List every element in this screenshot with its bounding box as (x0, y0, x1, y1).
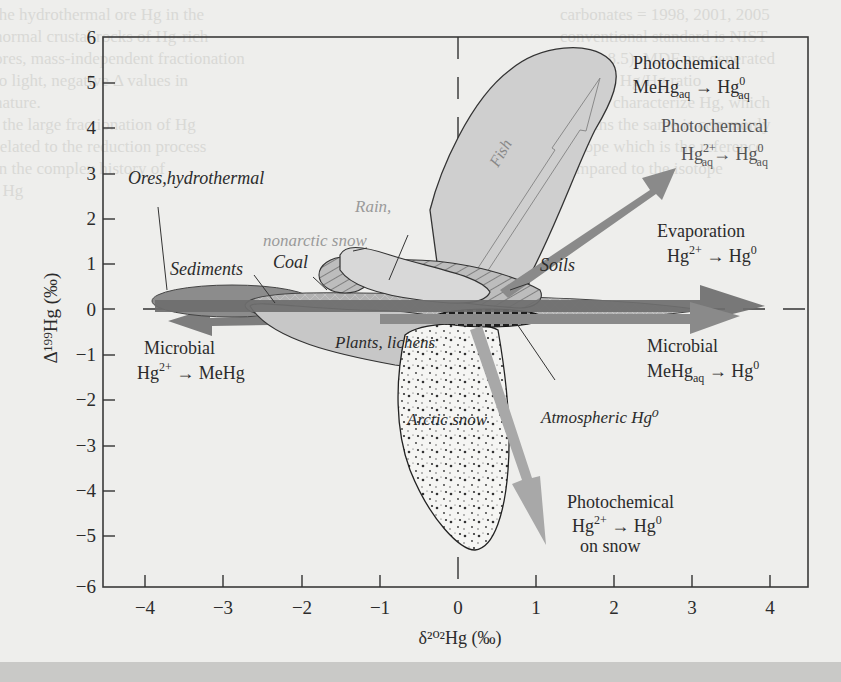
label-coal: Coal (273, 252, 308, 272)
x-tick-label: 0 (453, 597, 463, 618)
x-tick-label: 1 (531, 597, 541, 618)
y-tick-label: −5 (76, 525, 96, 546)
y-axis-title: Δ¹⁹⁹Hg (‰) (40, 273, 62, 364)
label-atmospheric: Atmospheric Hg⁰ (540, 408, 659, 427)
y-tick-label: 0 (87, 299, 97, 320)
y-tick-label: −2 (76, 389, 96, 410)
process-micro-left-eq: Hg2+ → MeHg (137, 360, 245, 383)
y-tick-labels: 6 5 4 3 2 1 0 −1 −2 −3 −4 −5 −6 (76, 27, 97, 597)
process-photo-mehg-title: Photochemical (633, 53, 740, 73)
y-tick-label: 4 (87, 117, 97, 138)
label-ores: Ores,hydrothermal (128, 168, 264, 188)
y-tick-label: −6 (76, 576, 96, 597)
label-arctic-snow: Arctic snow (406, 410, 488, 429)
y-tick-label: 2 (87, 208, 97, 229)
label-plants: Plants, lichens (334, 333, 435, 352)
process-evap-eq: Hg2+ → Hg0 (667, 243, 757, 266)
label-sediments: Sediments (170, 259, 243, 279)
x-tick-label: −3 (213, 597, 233, 618)
x-tick-labels: −4 −3 −2 −1 0 1 2 3 4 (135, 597, 775, 618)
x-tick-label: 3 (687, 597, 697, 618)
x-tick-label: −4 (135, 597, 156, 618)
x-tick-label: 4 (765, 597, 775, 618)
process-micro-left-title: Microbial (144, 338, 215, 358)
x-axis-title: δ²⁰²Hg (‰) (419, 628, 502, 649)
process-photo-hg-title: Photochemical (661, 116, 768, 136)
y-tick-label: 6 (87, 27, 97, 48)
label-rain-2: nonarctic snow (263, 231, 367, 250)
process-photo-snow-eq: Hg2+ → Hg0 (572, 513, 662, 536)
process-photo-snow-title: Photochemical (567, 492, 674, 512)
arctic-snow-region (398, 324, 509, 550)
process-photo-snow-sub: on snow (580, 536, 641, 556)
isotope-diagram: 6 5 4 3 2 1 0 −1 −2 −3 −4 −5 −6 −4 −3 −2… (0, 0, 841, 682)
process-evap-title: Evaporation (657, 221, 745, 241)
y-tick-label: −1 (76, 344, 96, 365)
label-soils: Soils (540, 255, 575, 275)
x-tick-label: −1 (370, 597, 390, 618)
label-rain: Rain, (354, 197, 391, 216)
x-tick-label: −2 (292, 597, 312, 618)
y-tick-label: −3 (76, 435, 96, 456)
y-tick-label: 3 (87, 163, 97, 184)
process-photo-hg-eq: Hg2+aq→ Hg0aq (681, 141, 768, 169)
page-bottom-strip (0, 662, 841, 682)
y-axis-ticks (103, 83, 115, 536)
y-tick-label: 1 (87, 253, 97, 274)
process-micro-right-title: Microbial (647, 336, 718, 356)
y-tick-label: −4 (76, 480, 97, 501)
y-tick-label: 5 (87, 72, 97, 93)
x-tick-label: 2 (609, 597, 619, 618)
process-micro-right-eq: MeHgaq → Hg0 (647, 358, 759, 385)
process-photo-mehg-eq: MeHgaq → Hg0aq (633, 74, 750, 102)
